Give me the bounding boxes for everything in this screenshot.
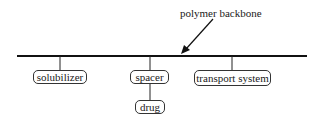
node-drug: drug — [135, 100, 165, 114]
annotation-arrow — [186, 19, 213, 49]
node-transport-system: transport system — [194, 70, 271, 86]
node-solubilizer: solubilizer — [33, 70, 87, 84]
polymer-backbone-label: polymer backbone — [180, 7, 262, 19]
polymer-drug-conjugate-diagram: polymer backbone solubilizer spacer drug… — [0, 0, 322, 124]
node-spacer: spacer — [130, 70, 169, 84]
